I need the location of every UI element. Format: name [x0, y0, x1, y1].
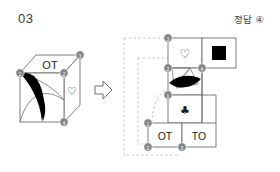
right-arrow-icon: [95, 81, 112, 99]
svg-text:1: 1: [167, 93, 170, 99]
svg-text:3: 3: [167, 36, 170, 42]
cube-vertex-4: 4: [60, 118, 68, 126]
svg-text:1: 1: [19, 71, 22, 77]
net-vertex-3-lower: 3: [178, 143, 186, 151]
net-vertex-1: 1: [164, 91, 172, 99]
cube-top-face-label: OT: [42, 59, 58, 71]
svg-text:2: 2: [167, 66, 170, 72]
svg-text:4: 4: [63, 120, 66, 126]
figure-canvas: 03 정답 ④: [0, 0, 280, 172]
cube-vertex-1: 1: [16, 69, 24, 77]
svg-text:2: 2: [147, 145, 150, 151]
svg-text:2: 2: [63, 71, 66, 77]
net-vertex-2-lower: 2: [144, 143, 152, 151]
svg-text:3: 3: [181, 145, 184, 151]
cube-right-face-heart-icon: ♡: [67, 85, 77, 98]
net-vertex-1-lower: 1: [144, 119, 152, 127]
net-to-label: TO: [192, 130, 206, 142]
net-black-square-icon: [212, 46, 226, 60]
diagram-svg: OT ♡ 1 2 3 4: [0, 0, 280, 172]
svg-text:4: 4: [201, 66, 204, 72]
net-extra-edges: [202, 68, 216, 123]
net-vertex-2: 2: [164, 64, 172, 72]
net-heart-icon: ♡: [180, 47, 191, 61]
net-ot-label: OT: [158, 130, 173, 142]
net-club-icon: ♣: [180, 104, 190, 117]
cube-vertex-3: 3: [76, 51, 84, 59]
cube-vertex-2: 2: [60, 69, 68, 77]
net-figure: ♡ ♣ OT TO 3 2: [124, 34, 236, 155]
cube-figure: OT ♡ 1 2 3 4: [16, 51, 84, 126]
svg-text:3: 3: [79, 53, 82, 59]
svg-text:1: 1: [147, 121, 150, 127]
net-vertex-3-top: 3: [164, 34, 172, 42]
net-vertex-4: 4: [198, 64, 206, 72]
